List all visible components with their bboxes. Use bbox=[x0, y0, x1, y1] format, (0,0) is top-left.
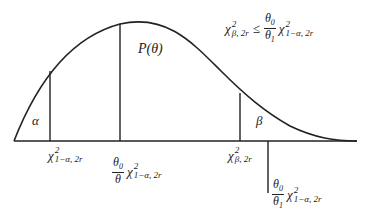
rhs-sub: 1−α, 2r bbox=[286, 29, 314, 38]
fraction: θ0 θ bbox=[112, 156, 124, 186]
frac-den-sub: 1 bbox=[271, 36, 275, 45]
frac-num-sub: 0 bbox=[271, 18, 275, 27]
curve-label: P(θ) bbox=[138, 42, 163, 56]
condition-formula: χ 2β, 2r ≤ θ0 θ1 χ 21−α, 2r bbox=[225, 12, 313, 45]
axis-label-chi-beta: χ 2β, 2r bbox=[228, 146, 252, 164]
axis-label-theta0-over-theta: θ0 θ χ 21−α, 2r bbox=[112, 156, 161, 186]
beta-region-label: β bbox=[256, 114, 262, 127]
lhs-chi: χ bbox=[225, 22, 231, 35]
theta-fraction: θ0 θ1 bbox=[264, 12, 276, 45]
chi-symbol: χ bbox=[48, 149, 54, 162]
alpha-region-label: α bbox=[32, 114, 39, 127]
lhs-sub: β, 2r bbox=[232, 29, 249, 38]
chi-symbol: χ bbox=[287, 188, 293, 201]
rhs-chi: χ bbox=[279, 22, 285, 35]
chi-symbol: χ bbox=[127, 165, 133, 178]
fraction: θ0 θ1 bbox=[272, 178, 284, 211]
chi-sub: 1−α, 2r bbox=[294, 195, 322, 204]
axis-label-theta0-over-theta1: θ0 θ1 χ 21−α, 2r bbox=[272, 178, 321, 211]
axis-label-chi-1-alpha: χ 21−α, 2r bbox=[48, 146, 83, 164]
frac-den-sub: 1 bbox=[279, 202, 283, 211]
chi-symbol: χ bbox=[228, 149, 234, 162]
leq-operator: ≤ bbox=[253, 22, 260, 35]
frac-den: θ bbox=[115, 172, 121, 186]
chi-sub: 1−α, 2r bbox=[55, 155, 83, 164]
chi-sub: 1−α, 2r bbox=[134, 171, 162, 180]
frac-num-sub: 0 bbox=[119, 162, 123, 171]
chi-sub: β, 2r bbox=[235, 155, 252, 164]
frac-num-sub: 0 bbox=[279, 184, 283, 193]
